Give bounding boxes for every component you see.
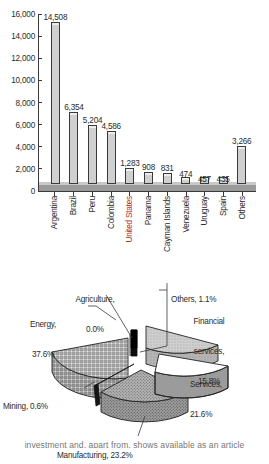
pie-label-energy: Energy, 37.6% — [6, 300, 80, 380]
pie-label-mining-text: Mining, 0.6% — [3, 402, 48, 412]
bar-item: 908 — [139, 14, 158, 184]
bar-value-label: 474 — [179, 170, 192, 179]
y-axis-tick: 10,000 — [11, 76, 39, 85]
pie-label-financial-l1: Financial — [172, 317, 246, 327]
x-label-others: Others — [232, 196, 251, 246]
y-tick-label: 10,000 — [11, 76, 35, 85]
bar-value-label: 831 — [161, 164, 174, 173]
x-label-brazil: Brazil — [64, 196, 83, 246]
pie-label-services-name: Services, — [190, 380, 222, 390]
y-axis-tick: 14,000 — [11, 32, 39, 41]
bar-others: 3,266 — [237, 148, 246, 184]
y-tick-label: 6,000 — [16, 120, 36, 129]
bar-colombia: 4,586 — [107, 133, 116, 184]
x-label-peru: Peru — [82, 196, 101, 246]
pie-label-mining: Mining, 0.6% — [3, 382, 48, 432]
bar-item: 3,266 — [232, 14, 251, 184]
x-label-text: Colombia — [106, 196, 115, 229]
y-axis-tick: 6,000 — [16, 120, 40, 129]
y-tick-label: 4,000 — [16, 142, 36, 151]
bar-item: 1,283 — [121, 14, 140, 184]
y-tick-label: 16,000 — [11, 10, 35, 19]
x-label-spain: Spain — [214, 196, 233, 246]
y-axis-tick: 2,000 — [16, 164, 40, 173]
pie-chart-panel: Agriculture, 0.0% Others, 1.1% Financial… — [0, 248, 269, 448]
x-label-cayman-islands: Cayman Islands — [157, 196, 176, 246]
bar-series: 14,508 6,354 5,204 4,586 1,283 908 831 4… — [39, 14, 256, 184]
bar-panama: 908 — [144, 174, 153, 184]
bar-item: 474 — [176, 14, 195, 184]
bar-value-label: 457 — [198, 175, 211, 184]
x-label-text: United States — [125, 196, 134, 243]
x-label-text: Peru — [87, 196, 96, 213]
pie-label-energy-name: Energy, — [6, 320, 80, 330]
bar-item: 14,508 — [46, 14, 65, 184]
bar-item: 6,354 — [65, 14, 84, 184]
bar-value-label: 908 — [142, 163, 155, 172]
x-label-venezuela: Venezuela — [176, 196, 195, 246]
bar-peru: 5,204 — [88, 127, 97, 184]
bar-item: 5,204 — [83, 14, 102, 184]
bar-value-label: 4,586 — [101, 122, 121, 131]
bar-value-label: 3,266 — [232, 137, 252, 146]
x-label-text: Others — [237, 196, 246, 219]
x-label-text: Brazil — [69, 196, 78, 215]
bar-item: 457 — [195, 14, 214, 184]
x-label-text: Uruguay — [200, 196, 209, 226]
y-tick-label: 2,000 — [16, 164, 36, 173]
bar-value-label: 1,283 — [120, 159, 140, 168]
y-tick-label: 8,000 — [16, 98, 36, 107]
bar-plot-area: 16,000 14,000 12,000 10,000 8,000 6,000 … — [38, 14, 256, 192]
y-axis-tick: 8,000 — [16, 98, 40, 107]
x-label-colombia: Colombia — [101, 196, 120, 246]
bar-spain: 435 — [219, 179, 228, 184]
y-axis-tick: 4,000 — [16, 142, 40, 151]
cutoff-caption-line: investment and, apart from, shows availa… — [0, 441, 269, 448]
bar-brazil: 6,354 — [69, 114, 78, 184]
pie-label-services-pct: 21.6% — [190, 410, 222, 420]
bar-item: 4,586 — [102, 14, 121, 184]
bar-item: 435 — [214, 14, 233, 184]
y-axis-tick: 16,000 — [11, 10, 39, 19]
x-label-text: Panama — [144, 196, 153, 225]
bar-cayman-islands: 831 — [163, 175, 172, 184]
leader-others-elbow — [159, 283, 167, 290]
bar-item: 831 — [158, 14, 177, 184]
bar-value-label: 5,204 — [83, 116, 103, 125]
x-label-panama: Panama — [139, 196, 158, 246]
pie-label-manufacturing-text: Manufacturing, 23.2% — [57, 451, 133, 461]
y-axis-tick: 12,000 — [11, 54, 39, 63]
chart-floor-slab — [39, 184, 256, 191]
bar-chart-panel: 16,000 14,000 12,000 10,000 8,000 6,000 … — [0, 0, 269, 248]
bar-argentina: 14,508 — [51, 24, 60, 184]
x-axis-labels: Argentina Brazil Peru Colombia United St… — [38, 196, 256, 246]
x-label-text: Spain — [218, 196, 227, 216]
pie-label-energy-pct: 37.6% — [6, 350, 80, 360]
x-label-text: Cayman Islands — [162, 196, 171, 252]
y-tick-label: 14,000 — [11, 32, 35, 41]
bar-venezuela: 474 — [181, 179, 190, 184]
y-tick-label: 0 — [31, 187, 35, 196]
y-tick-label: 12,000 — [11, 54, 35, 63]
bar-united-states: 1,283 — [125, 170, 134, 184]
pie-label-financial-l2: services, — [172, 347, 246, 357]
x-label-united-states: United States — [120, 196, 139, 246]
x-label-text: Argentina — [50, 196, 59, 229]
x-label-uruguay: Uruguay — [195, 196, 214, 246]
bar-value-label: 435 — [217, 175, 230, 184]
bar-uruguay: 457 — [200, 179, 209, 184]
cutoff-caption-text: investment and, apart from, shows availa… — [0, 441, 269, 448]
pie-label-services: Services, 21.6% — [190, 360, 222, 440]
x-label-argentina: Argentina — [45, 196, 64, 246]
x-label-text: Venezuela — [181, 196, 190, 232]
bar-value-label: 6,354 — [64, 103, 84, 112]
